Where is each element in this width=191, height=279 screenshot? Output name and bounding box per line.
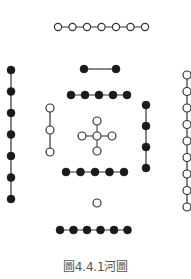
white-dot-icon	[183, 170, 191, 178]
dot-group-bottom-inner-5	[62, 168, 128, 176]
white-dot-icon	[83, 23, 90, 30]
white-dot-icon	[183, 187, 191, 195]
dot-group-right-outer	[183, 71, 191, 211]
black-dot-icon	[7, 152, 15, 160]
dot-group-top-inner-5	[67, 91, 131, 99]
white-dot-icon	[112, 23, 119, 30]
dot-group-right-inner	[142, 101, 150, 172]
dot-group-left-outer	[7, 66, 15, 203]
black-dot-icon	[110, 226, 118, 234]
black-dot-icon	[7, 109, 15, 117]
black-dot-icon	[62, 168, 70, 176]
white-dot-icon	[93, 199, 101, 207]
white-dot-icon	[141, 23, 148, 30]
white-dot-icon	[78, 132, 86, 140]
white-dot-icon	[46, 126, 54, 134]
black-dot-icon	[142, 164, 150, 172]
black-dot-icon	[109, 91, 117, 99]
white-dot-icon	[54, 23, 61, 30]
black-dot-icon	[70, 226, 78, 234]
white-dot-icon	[46, 104, 54, 112]
white-dot-icon	[46, 148, 54, 156]
white-dot-icon	[183, 104, 191, 112]
white-dot-icon	[183, 88, 191, 96]
white-dot-icon	[69, 23, 76, 30]
black-dot-icon	[67, 91, 75, 99]
white-dot-icon	[98, 23, 105, 30]
black-dot-icon	[80, 65, 88, 73]
white-dot-icon	[127, 23, 134, 30]
black-dot-icon	[124, 226, 132, 234]
black-dot-icon	[91, 168, 99, 176]
figure-caption: 圖4.4.1河圖	[0, 257, 191, 274]
black-dot-icon	[56, 226, 64, 234]
black-dot-icon	[106, 168, 114, 176]
dot-group-top-outer	[54, 23, 148, 30]
black-dot-icon	[81, 91, 89, 99]
black-dot-icon	[7, 66, 15, 74]
black-dot-icon	[142, 101, 150, 109]
dot-group-top-inner-2	[80, 65, 120, 73]
black-dot-icon	[142, 143, 150, 151]
white-dot-icon	[183, 154, 191, 162]
hetu-diagram	[0, 0, 191, 279]
white-dot-icon	[183, 121, 191, 129]
black-dot-icon	[123, 91, 131, 99]
white-dot-icon	[93, 132, 101, 140]
black-dot-icon	[7, 131, 15, 139]
white-dot-icon	[183, 203, 191, 211]
black-dot-icon	[142, 122, 150, 130]
white-dot-icon	[183, 137, 191, 145]
black-dot-icon	[97, 226, 105, 234]
dot-group-bottom-outer	[56, 226, 132, 234]
black-dot-icon	[7, 195, 15, 203]
dot-group-bottom-inner-1	[93, 199, 101, 207]
white-dot-icon	[93, 147, 101, 155]
black-dot-icon	[77, 168, 85, 176]
black-dot-icon	[95, 91, 103, 99]
black-dot-icon	[83, 226, 91, 234]
dot-group-left-inner	[46, 104, 54, 156]
dot-group-center	[78, 117, 116, 155]
white-dot-icon	[108, 132, 116, 140]
white-dot-icon	[183, 71, 191, 79]
black-dot-icon	[7, 174, 15, 182]
white-dot-icon	[93, 117, 101, 125]
black-dot-icon	[7, 88, 15, 96]
black-dot-icon	[112, 65, 120, 73]
black-dot-icon	[120, 168, 128, 176]
